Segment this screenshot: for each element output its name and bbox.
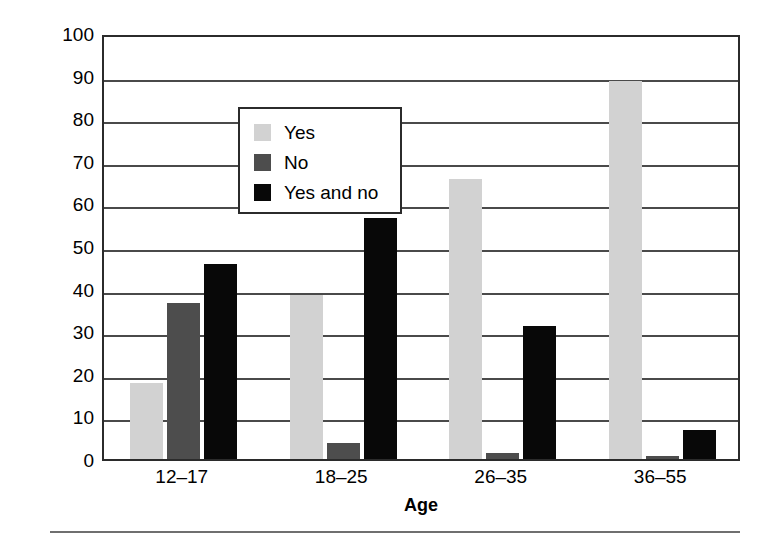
footer-divider [50, 531, 740, 533]
bar [646, 456, 679, 459]
bar [130, 383, 163, 459]
x-axis-tick-label: 36–55 [580, 466, 740, 488]
bar-group [423, 37, 583, 459]
x-axis-title: Age [102, 495, 740, 516]
y-axis-tick-label: 60 [30, 195, 94, 214]
y-axis-tick-labels: 0102030405060708090100 [30, 35, 94, 461]
y-axis-tick-label: 70 [30, 153, 94, 172]
bar-group [104, 37, 264, 459]
bar [683, 430, 716, 459]
y-axis-tick-label: 30 [30, 323, 94, 342]
bar [609, 81, 642, 459]
bar [167, 303, 200, 459]
legend-swatch-icon [254, 184, 271, 201]
legend-entry: Yes [254, 117, 400, 147]
y-axis-tick-label: 90 [30, 68, 94, 87]
y-axis-tick-label: 80 [30, 110, 94, 129]
legend-swatch-icon [254, 154, 271, 171]
plot-area: YesNoYes and no [102, 35, 740, 461]
bar [364, 218, 397, 459]
bar-group [583, 37, 743, 459]
legend-swatch-icon [254, 124, 271, 141]
bar [327, 443, 360, 459]
bar [523, 326, 556, 459]
y-axis-tick-label: 10 [30, 408, 94, 427]
legend-label: Yes and no [284, 183, 378, 202]
x-axis-tick-label: 26–35 [421, 466, 581, 488]
y-axis-tick-label: 0 [30, 451, 94, 470]
legend-label: Yes [284, 123, 315, 142]
bar [290, 295, 323, 459]
x-axis-tick-labels: 12–1718–2526–3536–55 [102, 466, 740, 492]
legend: YesNoYes and no [238, 107, 402, 214]
y-axis-tick-label: 20 [30, 366, 94, 385]
bar-group [264, 37, 424, 459]
legend-entry: Yes and no [254, 177, 400, 207]
bar [449, 179, 482, 459]
legend-label: No [284, 153, 308, 172]
y-axis-tick-label: 40 [30, 281, 94, 300]
bar [486, 453, 519, 459]
bar [204, 264, 237, 459]
y-axis-tick-label: 100 [30, 25, 94, 44]
legend-entry: No [254, 147, 400, 177]
y-axis-tick-label: 50 [30, 238, 94, 257]
chart-figure: Percentage 0102030405060708090100 YesNoY… [0, 0, 768, 556]
x-axis-tick-label: 18–25 [261, 466, 421, 488]
x-axis-tick-label: 12–17 [102, 466, 262, 488]
